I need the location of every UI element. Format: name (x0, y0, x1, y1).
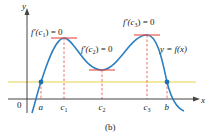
annotation-c3: f′(c3) = 0 (123, 17, 155, 28)
curve-label: y = f(x) (159, 44, 187, 54)
y-axis-label: y (21, 1, 26, 11)
mean-value-diagram: y x 0 a c1 c2 c3 b f′(c1) = 0 f′(c2) = 0… (0, 0, 214, 136)
annotation-c2: f′(c2) = 0 (81, 44, 113, 55)
origin-label: 0 (17, 100, 22, 110)
point-b (165, 80, 170, 85)
tick-c3: c3 (144, 102, 151, 113)
tick-a: a (39, 102, 44, 112)
tick-b: b (165, 102, 170, 112)
x-axis-label: x (200, 95, 205, 105)
tick-c2: c2 (99, 102, 106, 113)
point-a (39, 80, 44, 85)
annotation-c1: f′(c1) = 0 (31, 27, 63, 38)
figure-caption: (b) (105, 122, 116, 132)
x-axis-arrow-icon (193, 97, 200, 102)
tick-c1: c1 (61, 102, 68, 113)
